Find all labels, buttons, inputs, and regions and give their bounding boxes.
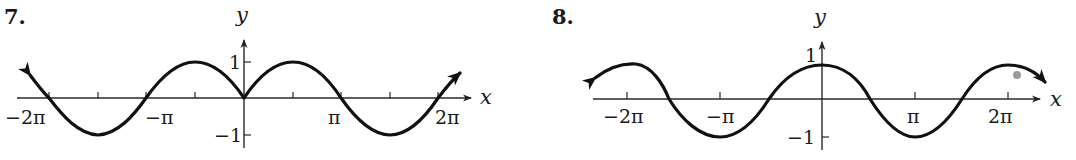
graph-7: 7. y x −2π −π π 2π 1 −1 bbox=[4, 3, 492, 148]
y-tick-label-neg1: −1 bbox=[787, 126, 815, 148]
x-tick-label-pi: π bbox=[328, 106, 341, 128]
x-tick-label-2pi: 2π bbox=[435, 106, 460, 128]
x-tick-label-neg2pi: −2π bbox=[5, 106, 46, 128]
x-tick-label-neg2pi: −2π bbox=[603, 105, 644, 127]
x-ticks bbox=[627, 92, 1008, 99]
x-tick-label-negpi: −π bbox=[706, 105, 734, 127]
figure-pair: 7. y x −2π −π π 2π 1 −1 8. bbox=[0, 0, 1076, 160]
x-tick-label-pi: π bbox=[907, 105, 920, 127]
x-axis-label: x bbox=[1050, 87, 1062, 111]
y-axis-label: y bbox=[235, 3, 249, 27]
smudge-dot bbox=[1013, 71, 1021, 79]
y-tick-label-1: 1 bbox=[805, 44, 817, 66]
y-tick-label-1: 1 bbox=[229, 51, 241, 73]
y-axis-label: y bbox=[813, 5, 827, 29]
problem-number: 7. bbox=[4, 4, 26, 29]
graph-8: 8. y x −2π −π π 2π 1 −1 bbox=[552, 4, 1062, 150]
y-tick-label-neg1: −1 bbox=[214, 124, 242, 146]
x-axis-label: x bbox=[480, 85, 492, 109]
function-curve bbox=[595, 64, 1045, 137]
problem-number: 8. bbox=[552, 4, 574, 29]
x-tick-label-negpi: −π bbox=[145, 106, 173, 128]
x-tick-label-2pi: 2π bbox=[988, 105, 1013, 127]
